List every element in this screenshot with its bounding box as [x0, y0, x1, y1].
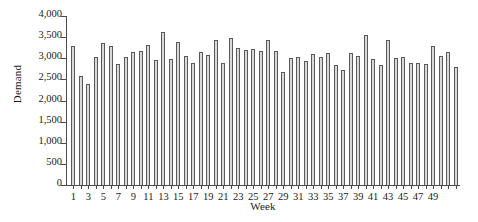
x-axis-tick-mark [141, 185, 142, 189]
x-axis-tick-mark [373, 185, 374, 189]
y-axis-title: Demand [11, 34, 23, 134]
bar [139, 51, 143, 185]
x-axis-tick-mark [426, 185, 427, 189]
bar [214, 40, 218, 185]
x-axis-tick-mark [163, 185, 164, 189]
bar [394, 58, 398, 185]
bar [424, 64, 428, 185]
bar [356, 56, 360, 185]
x-axis-tick-label: 1 [71, 191, 76, 202]
y-axis-tick-label: 500 [46, 156, 62, 167]
bar [439, 56, 443, 185]
x-axis-tick-label: 25 [248, 191, 259, 202]
x-axis-tick-mark [343, 185, 344, 189]
bar [199, 52, 203, 185]
x-axis-tick-label: 5 [101, 191, 106, 202]
x-axis-tick-mark [216, 185, 217, 189]
x-axis-tick-label: 27 [263, 191, 274, 202]
x-axis-tick-mark [388, 185, 389, 189]
bar [431, 46, 435, 185]
bar [221, 63, 225, 185]
bar [454, 67, 458, 185]
x-axis-tick-label: 39 [353, 191, 364, 202]
x-axis-tick-label: 41 [368, 191, 379, 202]
bar [146, 45, 150, 185]
y-axis-tick-label: 1,500 [38, 114, 62, 125]
x-axis-tick-mark [208, 185, 209, 189]
x-axis-tick-mark [223, 185, 224, 189]
bar [296, 57, 300, 185]
bar [379, 65, 383, 185]
bar [386, 40, 390, 185]
x-axis-tick-mark [328, 185, 329, 189]
x-axis-tick-mark [268, 185, 269, 189]
bar [154, 60, 158, 185]
x-axis-tick-mark [186, 185, 187, 189]
x-axis-tick-mark [396, 185, 397, 189]
bar [281, 72, 285, 185]
x-axis-tick-mark [201, 185, 202, 189]
bar [236, 48, 240, 185]
x-axis-tick-label: 17 [188, 191, 199, 202]
x-axis-tick-mark [111, 185, 112, 189]
x-axis-tick-mark [81, 185, 82, 189]
x-axis-tick-label: 35 [323, 191, 334, 202]
x-axis-tick-label: 43 [383, 191, 394, 202]
x-axis-tick-mark [193, 185, 194, 189]
x-axis-tick-label: 49 [428, 191, 439, 202]
x-axis-tick-label: 23 [233, 191, 244, 202]
x-axis-tick-mark [366, 185, 367, 189]
x-axis-tick-mark [118, 185, 119, 189]
y-axis-tick-label: 4,000 [38, 8, 62, 19]
x-axis-tick-mark [321, 185, 322, 189]
x-axis-tick-label: 11 [143, 191, 153, 202]
bar [446, 52, 450, 185]
y-axis-tick-label: 2,500 [38, 71, 62, 82]
x-axis-tick-mark [313, 185, 314, 189]
x-axis-tick-mark [178, 185, 179, 189]
x-axis-tick-mark [283, 185, 284, 189]
bar [229, 38, 233, 185]
x-axis-tick-mark [96, 185, 97, 189]
x-axis-tick-mark [306, 185, 307, 189]
x-axis-tick-mark [253, 185, 254, 189]
bar [176, 42, 180, 185]
y-axis-tick-label: 3,000 [38, 50, 62, 61]
bar [71, 46, 75, 185]
x-axis-tick-mark [276, 185, 277, 189]
demand-bar-chart: Demand Week 05001,0001,5002,0002,5003,00… [0, 0, 478, 222]
x-axis-tick-mark [291, 185, 292, 189]
y-axis-tick-label: 2,000 [38, 93, 62, 104]
x-axis-tick-label: 9 [131, 191, 136, 202]
x-axis-tick-label: 19 [203, 191, 214, 202]
bar [401, 57, 405, 185]
bar [289, 58, 293, 185]
x-axis-tick-label: 13 [158, 191, 169, 202]
x-axis-tick-mark [156, 185, 157, 189]
x-axis-tick-mark [88, 185, 89, 189]
bar [251, 49, 255, 185]
y-axis-tick-label: 1,000 [38, 135, 62, 146]
x-axis-tick-mark [103, 185, 104, 189]
bar [124, 57, 128, 185]
x-axis-tick-mark [261, 185, 262, 189]
bar [311, 54, 315, 185]
plot-area: 05001,0001,5002,0002,5003,0003,5004,000 … [66, 16, 460, 185]
bar [334, 65, 338, 185]
x-axis-tick-label: 3 [86, 191, 91, 202]
x-axis-tick-label: 29 [278, 191, 289, 202]
bar [169, 59, 173, 185]
bar [131, 52, 135, 185]
x-axis-tick-mark [298, 185, 299, 189]
y-axis-line [66, 16, 67, 185]
x-axis-tick-mark [126, 185, 127, 189]
x-axis-tick-label: 37 [338, 191, 349, 202]
bar [116, 64, 120, 185]
bar [109, 46, 113, 185]
y-axis-tick-label: 0 [57, 177, 62, 188]
x-axis-tick-label: 47 [413, 191, 424, 202]
x-axis-tick-label: 31 [293, 191, 304, 202]
y-axis-tick-label: 3,500 [38, 29, 62, 40]
x-axis-tick-mark [418, 185, 419, 189]
bar [326, 53, 330, 185]
